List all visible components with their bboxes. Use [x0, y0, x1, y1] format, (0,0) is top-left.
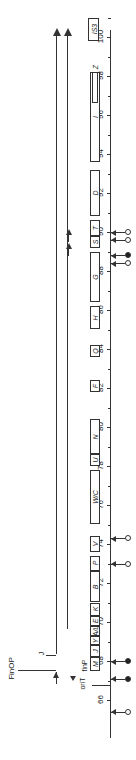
filled-circle-icon	[125, 658, 131, 664]
axis-tick	[107, 505, 111, 506]
open-circle-icon	[125, 535, 131, 541]
gene-label: T	[92, 226, 99, 230]
gene-box-v: V	[90, 536, 100, 552]
open-circle-icon	[125, 709, 131, 715]
axis-minor-tick	[108, 96, 111, 97]
map-axis	[110, 30, 111, 738]
axis-tick	[107, 271, 111, 272]
gene-label: J	[92, 649, 99, 653]
arrow-head-icon	[66, 229, 72, 235]
gene-label: Q	[92, 348, 99, 353]
j-label: J	[38, 652, 45, 656]
axis-tick	[107, 115, 111, 116]
finp-label: finP	[81, 659, 88, 671]
gene-box-q: Q	[90, 345, 100, 357]
axis-tick	[107, 466, 111, 467]
gene-label: D	[92, 190, 99, 195]
axis-minor-tick	[108, 18, 111, 19]
gene-label: E	[92, 619, 99, 624]
gene-label: U	[92, 458, 99, 463]
axis-tick	[107, 310, 111, 311]
gene-label: P	[92, 561, 99, 566]
gene-label: A/L	[92, 626, 99, 637]
open-circle-icon	[125, 260, 131, 266]
arrow-head-icon	[111, 261, 116, 267]
orit-line	[92, 685, 110, 686]
gene-box-w-c: W/C	[90, 470, 100, 525]
axis-minor-tick	[108, 213, 111, 214]
arrow-head-icon	[111, 536, 116, 542]
arrow-head-icon	[111, 230, 116, 236]
gene-box-b: B	[90, 571, 100, 602]
gene-box-u: U	[90, 454, 100, 466]
arrow-head-icon	[111, 253, 116, 259]
filled-circle-icon	[125, 676, 131, 682]
gene-label: B	[92, 585, 99, 590]
finop-pointer	[18, 670, 56, 671]
axis-minor-tick	[108, 369, 111, 370]
gene-box-h: H	[90, 306, 100, 329]
axis-minor-tick	[108, 408, 111, 409]
axis-minor-tick	[108, 525, 111, 526]
gene-label: W/C	[92, 490, 99, 504]
arrow-head-icon	[111, 709, 116, 715]
arrow-head-icon	[111, 659, 116, 665]
axis-minor-tick	[108, 603, 111, 604]
gene-label: V	[92, 542, 99, 547]
gene-box-p: P	[90, 556, 100, 572]
axis-tick	[107, 544, 111, 545]
gene-box-k: K	[90, 603, 100, 617]
gene-label: F	[92, 384, 99, 388]
open-circle-icon	[125, 229, 131, 235]
axis-minor-tick	[108, 291, 111, 292]
gene-box-m: M	[90, 657, 100, 671]
axis-minor-tick	[108, 57, 111, 58]
axis-tick	[107, 37, 111, 38]
gene-box-e: E	[90, 616, 100, 626]
filled-circle-icon	[125, 252, 131, 258]
axis-tick	[107, 700, 111, 701]
arrow-head-icon	[70, 676, 76, 681]
arrow-head-icon	[111, 561, 116, 567]
gene-label: G	[92, 274, 99, 279]
gene-box-n: N	[90, 419, 100, 454]
gene-box-y: Y	[90, 636, 100, 646]
gene-box-j: J	[90, 645, 100, 657]
arrow-head-icon	[111, 676, 116, 682]
gene-box-d: D	[90, 170, 100, 217]
j-pointer	[46, 655, 56, 656]
gene-label: I	[92, 116, 99, 118]
gene-label: S	[92, 239, 99, 244]
transcript-segment	[67, 44, 68, 162]
gene-label: Y	[92, 638, 99, 643]
gene-label: K	[92, 607, 99, 612]
axis-tick-label: 66	[96, 692, 105, 708]
axis-minor-tick	[108, 486, 111, 487]
gene-box-is3: IS3	[88, 18, 99, 41]
arrow-head-icon	[64, 28, 72, 36]
axis-minor-tick	[108, 642, 111, 643]
axis-minor-tick	[108, 447, 111, 448]
axis-tick	[107, 583, 111, 584]
arrow-head-icon	[53, 672, 59, 678]
gene-box-t: T	[90, 220, 100, 236]
gene-box-g: G	[90, 252, 100, 303]
arrow-head-icon	[66, 243, 72, 249]
open-circle-icon	[125, 561, 131, 567]
gene-label: N	[92, 434, 99, 439]
gene-label: M	[92, 661, 99, 667]
gene-label: Z	[92, 65, 99, 69]
transcript-arrow-1	[56, 34, 57, 654]
arrow-head-icon	[111, 237, 116, 243]
axis-minor-tick	[108, 330, 111, 331]
orit-label: oriT	[79, 677, 86, 689]
gene-box-a-l: A/L	[90, 626, 100, 636]
axis-minor-tick	[108, 174, 111, 175]
axis-tick	[107, 427, 111, 428]
finop-label: FinOP	[7, 657, 16, 680]
axis-tick	[107, 388, 111, 389]
gene-box-s: S	[90, 236, 100, 248]
axis-minor-tick	[108, 135, 111, 136]
axis-tick	[107, 154, 111, 155]
gene-box-f: F	[90, 380, 100, 392]
